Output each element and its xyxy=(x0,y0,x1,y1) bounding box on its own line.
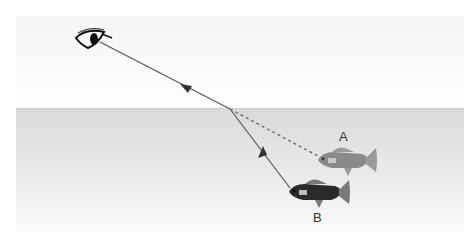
refracted-ray-air xyxy=(100,42,230,109)
refracted-ray-water xyxy=(230,109,290,188)
ray-diagram xyxy=(0,0,476,232)
fish-apparent xyxy=(318,147,377,176)
fish-actual xyxy=(289,179,350,208)
refraction-diagram: A B xyxy=(0,0,476,232)
apparent-ray-dashed xyxy=(230,109,318,156)
label-fish-b: B xyxy=(313,210,322,225)
arrow-icon xyxy=(180,84,192,93)
label-fish-a: A xyxy=(339,129,348,144)
